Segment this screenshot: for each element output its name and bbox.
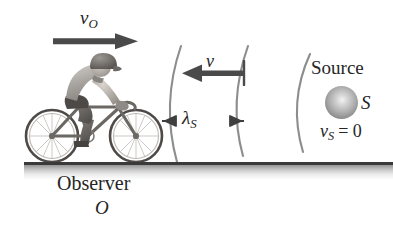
wavelength-measure-arrows-icon (162, 108, 244, 134)
wavelength-subscript: S (190, 116, 196, 131)
source-caption: Source (311, 58, 364, 77)
source-velocity-symbol: v (320, 121, 328, 141)
source-symbol-label: S (361, 93, 371, 112)
source-velocity-label: vS= 0 (320, 122, 362, 143)
observer-velocity-subscript: O (88, 16, 97, 31)
wavelength-label: λS (182, 108, 197, 131)
wavelength-symbol: λ (182, 107, 190, 128)
source-velocity-value: = 0 (338, 121, 362, 141)
source-velocity-subscript: S (328, 129, 334, 143)
doppler-effect-figure: vO (0, 0, 393, 235)
cyclist-observer-illustration (22, 48, 172, 166)
observer-symbol-label: O (95, 198, 109, 217)
observer-caption: Observer (57, 173, 130, 193)
observer-velocity-label: vO (80, 8, 98, 31)
sound-speed-arrow-icon (180, 60, 246, 86)
source-sphere-icon (325, 86, 358, 119)
